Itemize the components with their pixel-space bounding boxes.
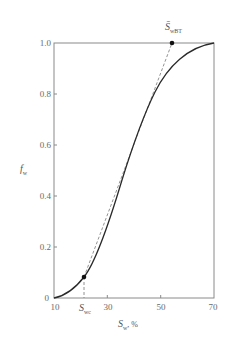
y-tick-label: 1.0 <box>40 38 52 48</box>
swc-label: Swc <box>79 302 91 315</box>
x-axis-label: Sw, % <box>118 318 138 331</box>
chart: 0 0.2 0.4 0.6 0.8 1.0 10 30 50 70 Swc S̄… <box>0 0 230 342</box>
swbt-point-marker <box>170 41 175 46</box>
y-axis-label: fw <box>20 163 28 176</box>
y-tick-label: 0.8 <box>40 89 52 99</box>
swbt-label: S̄wBT <box>165 21 182 34</box>
x-tick-label: 50 <box>157 302 167 312</box>
y-tick-label: 0.6 <box>40 140 52 150</box>
plot-frame <box>54 43 214 298</box>
x-tick-label: 30 <box>104 302 114 312</box>
swc-point-marker <box>82 275 87 280</box>
y-tick-label: 0.4 <box>40 191 52 201</box>
x-tick-label: 70 <box>209 302 219 312</box>
y-tick-label: 0 <box>45 293 50 303</box>
fractional-flow-curve <box>54 43 214 298</box>
y-tick-label: 0.2 <box>40 242 51 252</box>
x-tick-label: 10 <box>51 302 61 312</box>
